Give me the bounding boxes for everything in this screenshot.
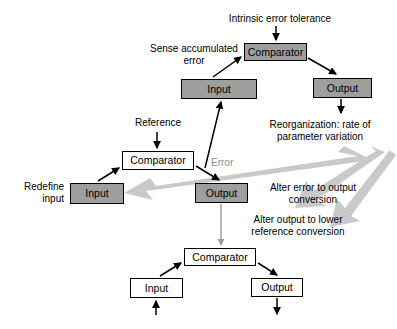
label-intrinsic-error-tolerance: Intrinsic error tolerance [222,13,338,25]
label-error: Error [211,157,251,169]
comparator-middle-label: Comparator [130,155,185,166]
output-bottom-label: Output [261,282,293,293]
output-middle: Output [195,183,248,203]
comparator-bottom: Comparator [184,248,256,266]
comparator-top-label: Comparator [248,47,303,58]
input-middle-label: Input [85,188,108,199]
input-bottom: Input [130,278,183,298]
output-middle-label: Output [206,188,238,199]
label-sense-accumulated-error: Sense accumulated error [140,43,248,67]
label-alter-error-to-output: Alter error to output conversion [250,182,376,206]
arrow-comparator-bottom-to-output-bottom [258,263,277,275]
input-top: Input [181,79,257,99]
input-top-label: Input [207,84,230,95]
label-alter-output-to-reference: Alter output to lower reference conversi… [228,214,368,238]
output-bottom: Output [251,278,303,297]
input-middle: Input [70,183,124,204]
label-reorganization-rate: Reorganization: rate of parameter variat… [256,119,384,143]
output-top: Output [313,78,372,98]
comparator-top: Comparator [244,43,307,61]
diagram-canvas: ComparatorInputOutputComparatorInputOutp… [0,0,397,329]
label-redefine-input: Redefine input [8,181,64,205]
label-reference: Reference [123,117,193,129]
arrow-comparator-top-to-output-top [308,58,336,74]
comparator-middle: Comparator [122,151,194,170]
input-bottom-label: Input [145,283,168,294]
output-top-label: Output [327,83,359,94]
arrow-input-middle-to-comparator-middle [98,168,119,181]
arrow-input-bottom-to-comparator-bottom [160,263,181,276]
comparator-bottom-label: Comparator [192,252,247,263]
